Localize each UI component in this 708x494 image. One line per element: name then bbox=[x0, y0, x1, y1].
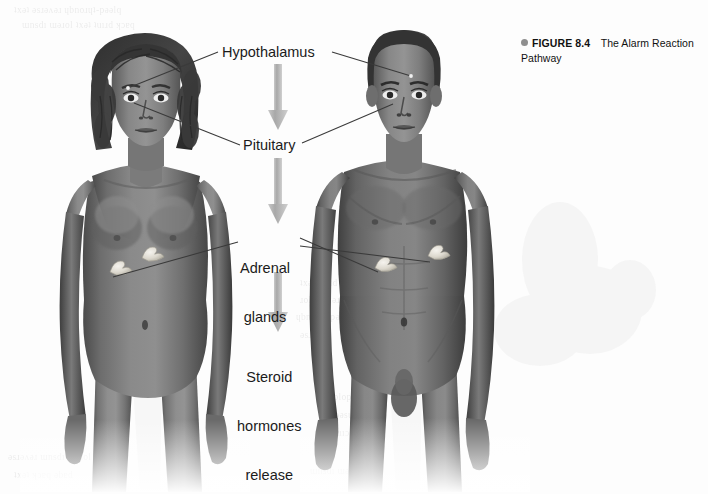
figure-number: FIGURE 8.4 bbox=[532, 37, 590, 49]
male-figure bbox=[300, 30, 530, 494]
label-steroid-hormones-release: Steroid hormones release bbox=[237, 337, 301, 494]
label-pituitary: Pituitary bbox=[243, 137, 295, 153]
label-adrenal-line1: Adrenal bbox=[240, 260, 290, 276]
anatomical-diagram-svg bbox=[0, 0, 708, 494]
flow-arrow-hypothalamus-to-pituitary bbox=[268, 64, 288, 130]
figure-container: ʇxǝʇ ǝsɹǝʌǝɹ ɥbnoɹɥʇ-pǝǝlq ɯnsdı ɯǝɹol ʇ… bbox=[0, 0, 708, 494]
figure-caption: FIGURE 8.4 The Alarm Reaction Pathway bbox=[521, 36, 701, 66]
label-steroid-line2: hormones bbox=[237, 418, 301, 434]
caption-bullet-icon bbox=[521, 39, 528, 46]
label-steroid-line3: release bbox=[237, 467, 301, 483]
label-hypothalamus: Hypothalamus bbox=[222, 44, 315, 60]
flow-arrow-pituitary-to-adrenal bbox=[268, 158, 288, 224]
label-adrenal-line2: glands bbox=[240, 309, 290, 325]
label-steroid-line1: Steroid bbox=[237, 369, 301, 385]
female-figure bbox=[20, 33, 250, 494]
leader-pituitary-male bbox=[302, 104, 393, 143]
